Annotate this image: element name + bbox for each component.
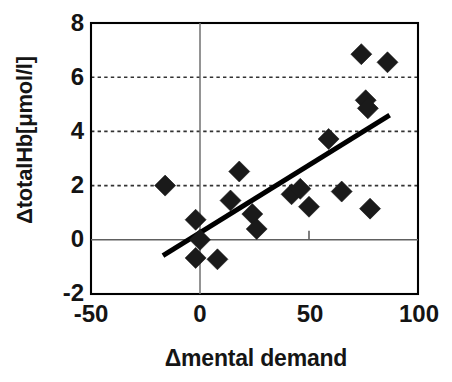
data-point-4 — [207, 249, 228, 270]
data-point-18 — [377, 52, 398, 73]
data-point-0 — [155, 175, 176, 196]
data-point-2 — [190, 229, 211, 250]
data-point-11 — [299, 196, 320, 217]
data-point-14 — [351, 44, 372, 65]
data-point-13 — [331, 181, 352, 202]
scatter-chart-figure: ΔtotalHb[μmol/l] 8 6 4 2 0 -2 -50 0 50 1… — [0, 0, 452, 382]
plot-area — [0, 0, 452, 382]
plot-frame — [91, 23, 418, 294]
data-point-3 — [185, 247, 206, 268]
data-point-6 — [229, 161, 250, 182]
data-point-1 — [185, 209, 206, 230]
data-point-17 — [360, 198, 381, 219]
